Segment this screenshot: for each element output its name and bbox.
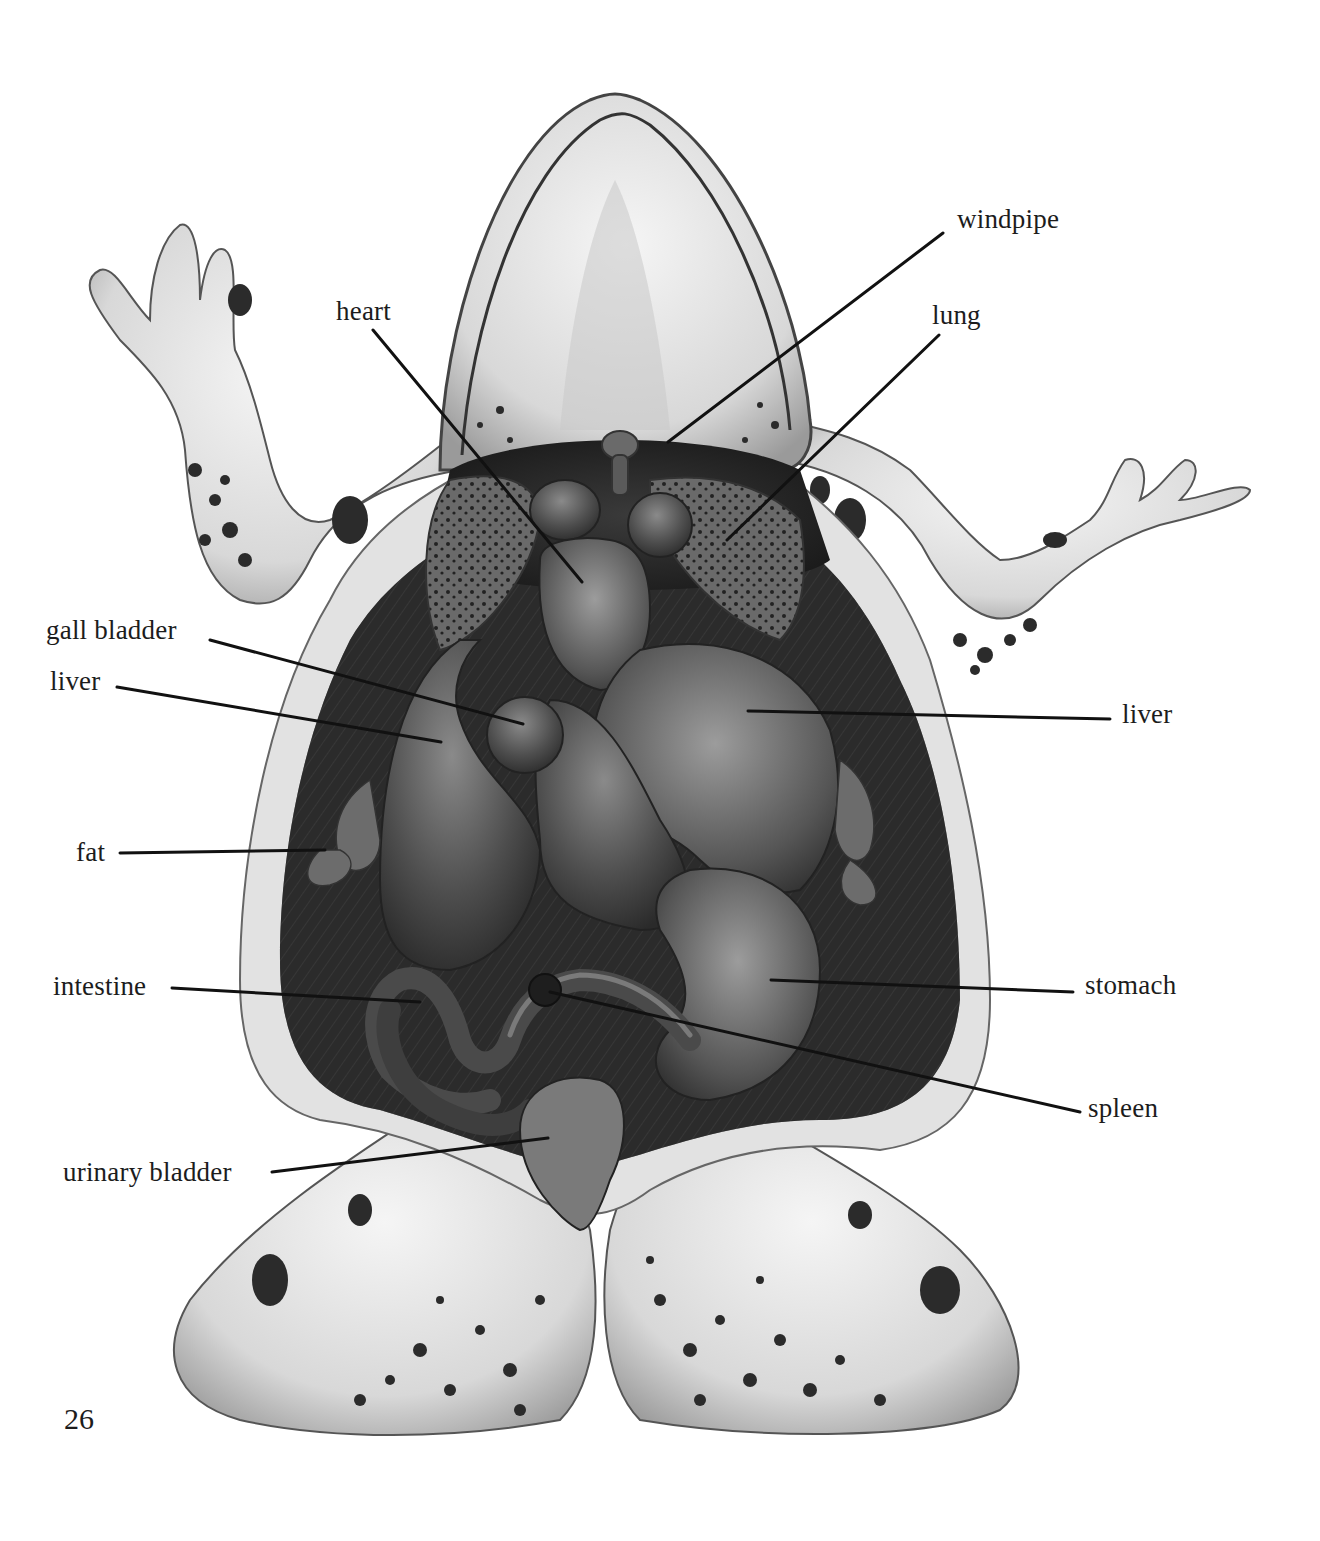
head — [440, 94, 811, 470]
label-gall-bladder: gall bladder — [46, 615, 177, 645]
label-spleen: spleen — [1088, 1093, 1158, 1123]
label-intestine: intestine — [53, 971, 146, 1001]
label-liver-left: liver — [50, 666, 100, 696]
label-urinary-bladder: urinary bladder — [63, 1157, 232, 1187]
label-fat: fat — [76, 837, 105, 867]
label-windpipe: windpipe — [957, 204, 1059, 234]
page-number: 26 — [64, 1402, 94, 1436]
label-lung: lung — [932, 300, 981, 330]
label-liver-right: liver — [1122, 699, 1172, 729]
gall-bladder — [487, 697, 563, 773]
spleen — [529, 974, 561, 1006]
frog-dissection-illustration — [0, 0, 1320, 1541]
label-heart: heart — [336, 296, 391, 326]
label-stomach: stomach — [1085, 970, 1176, 1000]
